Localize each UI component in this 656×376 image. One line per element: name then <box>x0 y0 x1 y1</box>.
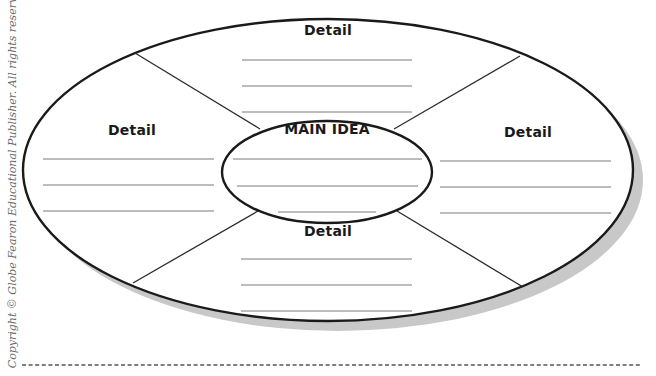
detail-bottom-label: Detail <box>304 223 352 239</box>
main-idea-detail-organizer: Copyright © Globe Fearon Educational Pub… <box>0 0 656 376</box>
organizer-graphic <box>0 0 656 376</box>
detail-top-label: Detail <box>304 22 352 38</box>
detail-left-label: Detail <box>108 122 156 138</box>
copyright-notice: Copyright © Globe Fearon Educational Pub… <box>6 0 19 368</box>
main-idea-label: MAIN IDEA <box>284 121 370 137</box>
detail-right-label: Detail <box>504 124 552 140</box>
